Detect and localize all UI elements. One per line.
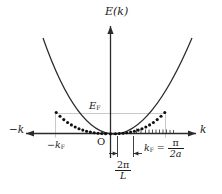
x-axis-right-label: k xyxy=(200,124,206,135)
y-axis xyxy=(107,26,113,158)
x-axis-left-label: −k xyxy=(9,124,24,135)
state-spacing-label: 2πL xyxy=(115,160,131,180)
origin-label: O xyxy=(97,137,105,147)
state-spacing-fraction: 2πL xyxy=(115,160,131,180)
x-axis-left-label-text: −k xyxy=(9,123,24,135)
fermi-k-fraction-numerator: π xyxy=(168,138,184,148)
fermi-k-equals: = xyxy=(157,142,165,153)
fermi-k-fraction: π2a xyxy=(168,138,184,158)
dispersion-plot xyxy=(0,0,222,194)
spacing-arrowhead-right xyxy=(113,151,118,155)
neg-fermi-k-subscript: F xyxy=(61,144,65,150)
fermi-energy-label: EF xyxy=(89,101,101,112)
figure-canvas: E(k) k −k EF O −kF kF=π2a 2πL xyxy=(0,0,222,194)
y-axis-arrowhead xyxy=(107,26,113,34)
origin-label-text: O xyxy=(97,136,105,147)
fermi-energy-subscript: F xyxy=(96,104,100,111)
state-spacing-numerator: 2π xyxy=(115,160,131,170)
fermi-k-equation: kF=π2a xyxy=(144,138,184,158)
x-axis-right-label-text: k xyxy=(200,123,206,135)
state-spacing-denominator: L xyxy=(115,170,131,181)
fermi-k-subscript: F xyxy=(150,147,154,153)
fermi-k-fraction-denominator: 2a xyxy=(168,148,184,159)
spacing-arrowhead-left xyxy=(134,151,139,155)
neg-fermi-k-symbol: −k xyxy=(47,139,61,150)
y-axis-label-text: E(k) xyxy=(105,5,128,18)
x-axis-left-arrowhead xyxy=(26,130,34,136)
y-axis-label: E(k) xyxy=(105,6,128,17)
neg-fermi-k-label: −kF xyxy=(47,140,65,151)
x-axis-right-arrowhead xyxy=(188,130,196,136)
